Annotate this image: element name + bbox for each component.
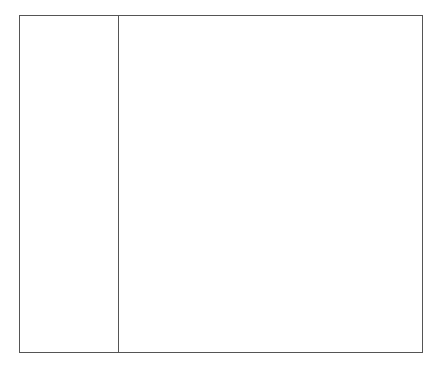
left-sidebar-pane bbox=[20, 16, 119, 352]
main-content-pane bbox=[119, 16, 422, 352]
window-frame bbox=[19, 15, 423, 353]
